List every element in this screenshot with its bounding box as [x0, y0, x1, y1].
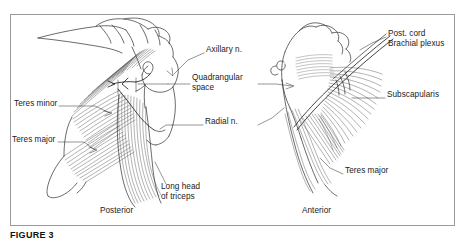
figure-caption: FIGURE 3	[10, 230, 54, 239]
label-quadrangular-space: Quadrangular space	[192, 73, 243, 92]
label-long-head-of-triceps: Long head of triceps	[161, 182, 200, 201]
label-teres-minor: Teres minor	[14, 99, 57, 109]
label-subscapularis: Subscapularis	[387, 90, 439, 100]
label-teres-major-right: Teres major	[345, 166, 388, 176]
label-view-anterior: Anterior	[302, 206, 331, 216]
label-post-cord-brachial-plexus: Post. cord Brachial plexus	[388, 29, 444, 48]
figure-page: .s { fill:none; stroke:#3a3a3a; stroke-w…	[0, 0, 470, 239]
label-axillary-nerve: Axillary n.	[206, 45, 242, 55]
label-view-posterior: Posterior	[100, 206, 133, 216]
label-radial-nerve: Radial n.	[205, 117, 238, 127]
label-teres-major-left: Teres major	[12, 135, 55, 145]
